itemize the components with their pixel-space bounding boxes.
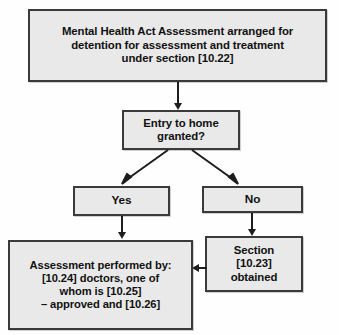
- connector-entry-to-no-line: [192, 150, 234, 180]
- flowchart-canvas: Mental Health Act Assessment arranged fo…: [0, 0, 339, 335]
- connector-section-to-assessment-line: [199, 267, 207, 269]
- connector-no-to-section-line: [251, 213, 253, 230]
- connector-no-to-section-arrowhead: [248, 229, 256, 236]
- connector-section-to-assessment-arrowhead: [192, 264, 199, 272]
- connector-entry-to-no-arrowhead: [229, 174, 238, 184]
- connector-yes-to-assessment-arrowhead: [118, 232, 126, 239]
- connector-entry-branches: [0, 0, 339, 335]
- connector-entry-to-yes-arrowhead: [122, 174, 131, 184]
- connector-entry-to-yes-line: [126, 150, 168, 180]
